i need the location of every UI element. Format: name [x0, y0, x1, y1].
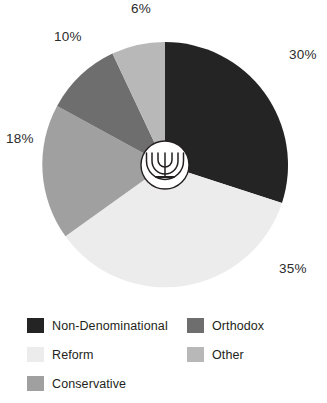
pie-value-label-non-denominational: 30%: [289, 47, 317, 62]
chart-legend: Non-Denominational Reform Conservative O…: [0, 312, 327, 403]
legend-column-left: Non-Denominational Reform Conservative: [27, 312, 168, 399]
legend-swatch-reform: [27, 347, 44, 362]
legend-label-non-denominational: Non-Denominational: [52, 319, 168, 333]
legend-item-reform[interactable]: Reform: [27, 341, 168, 368]
legend-item-non-denominational[interactable]: Non-Denominational: [27, 312, 168, 339]
pie-chart-svg: [0, 0, 327, 310]
legend-item-other[interactable]: Other: [187, 341, 264, 368]
pie-value-label-orthodox: 10%: [54, 29, 82, 44]
legend-label-other: Other: [212, 348, 244, 362]
pie-value-label-reform: 35%: [279, 261, 307, 276]
legend-column-right: Orthodox Other: [187, 312, 264, 370]
legend-swatch-non-denominational: [27, 318, 44, 333]
pie-chart-figure: 30% 35% 18% 10% 6%: [0, 0, 327, 310]
legend-label-orthodox: Orthodox: [212, 319, 264, 333]
legend-swatch-conservative: [27, 376, 44, 391]
legend-label-reform: Reform: [52, 348, 94, 362]
legend-swatch-orthodox: [187, 318, 204, 333]
pie-value-label-conservative: 18%: [6, 131, 34, 146]
pie-value-label-other: 6%: [131, 1, 151, 16]
legend-label-conservative: Conservative: [52, 377, 126, 391]
legend-item-orthodox[interactable]: Orthodox: [187, 312, 264, 339]
legend-swatch-other: [187, 347, 204, 362]
legend-item-conservative[interactable]: Conservative: [27, 370, 168, 397]
